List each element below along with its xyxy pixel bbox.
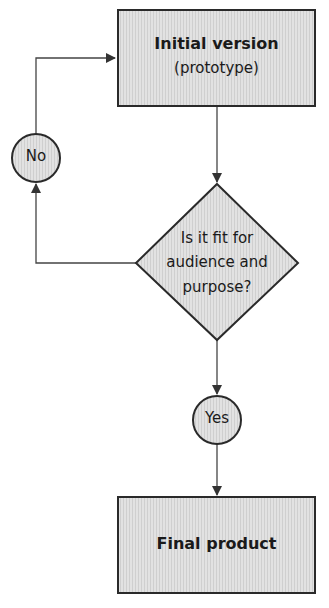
- flowchart-canvas: [0, 0, 329, 608]
- final-product-title: Final product: [118, 535, 315, 553]
- initial-version-title: Initial version: [118, 35, 315, 53]
- connector-decision-to-no: [36, 184, 136, 263]
- no-label: No: [12, 148, 60, 165]
- initial-version-box: [118, 10, 315, 106]
- yes-label: Yes: [193, 410, 241, 427]
- initial-version-subtitle: (prototype): [118, 60, 315, 77]
- decision-text-line1: Is it fit for: [140, 230, 294, 247]
- connector-no-to-initial: [36, 58, 115, 134]
- decision-text-line2: audience and: [140, 254, 294, 271]
- decision-text-line3: purpose?: [140, 279, 294, 296]
